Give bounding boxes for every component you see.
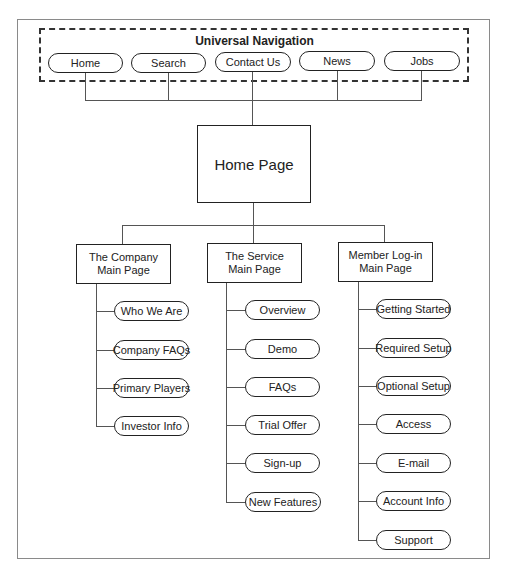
connector [85, 100, 422, 101]
connector [337, 71, 338, 100]
service-trial-offer[interactable]: Trial Offer [245, 415, 320, 435]
universal-nav-title: Universal Navigation [0, 34, 509, 48]
connector [253, 225, 254, 244]
company-who-we-are[interactable]: Who We Are [114, 301, 189, 321]
nav-home[interactable]: Home [48, 53, 123, 73]
connector [358, 282, 359, 541]
member-login-main-page-node[interactable]: Member Log-in Main Page [338, 242, 433, 282]
service-sign-up[interactable]: Sign-up [245, 453, 320, 473]
member-support[interactable]: Support [376, 530, 451, 550]
member-access[interactable]: Access [376, 414, 451, 434]
nav-jobs[interactable]: Jobs [384, 51, 460, 71]
connector [96, 311, 114, 312]
company-primary-players[interactable]: Primary Players [114, 378, 189, 398]
nav-contact-us[interactable]: Contact Us [215, 52, 291, 72]
connector [226, 502, 245, 503]
service-overview[interactable]: Overview [245, 300, 320, 320]
connector [226, 463, 245, 464]
connector [384, 225, 385, 243]
connector [358, 463, 376, 464]
connector [226, 349, 245, 350]
connector [96, 388, 114, 389]
member-getting-started[interactable]: Getting Started [376, 299, 451, 319]
connector [96, 350, 114, 351]
company-faqs[interactable]: Company FAQs [114, 340, 189, 360]
connector [226, 310, 245, 311]
company-main-page-node[interactable]: The Company Main Page [76, 244, 171, 284]
company-investor-info[interactable]: Investor Info [114, 416, 189, 436]
connector [358, 540, 376, 541]
member-required-setup[interactable]: Required Setup [376, 338, 451, 358]
member-email[interactable]: E-mail [376, 453, 451, 473]
service-faqs[interactable]: FAQs [245, 377, 320, 397]
connector [85, 73, 86, 100]
member-optional-setup[interactable]: Optional Setup [376, 376, 451, 396]
nav-news[interactable]: News [299, 51, 375, 71]
connector [96, 426, 114, 427]
service-new-features[interactable]: New Features [245, 492, 321, 512]
member-account-info[interactable]: Account Info [376, 491, 451, 511]
connector [226, 283, 227, 503]
connector [96, 284, 97, 427]
connector [253, 203, 254, 225]
service-main-page-node[interactable]: The Service Main Page [207, 243, 302, 283]
home-page-node[interactable]: Home Page [197, 125, 311, 203]
service-demo[interactable]: Demo [245, 339, 320, 359]
connector [358, 348, 376, 349]
connector [122, 225, 123, 245]
connector [358, 386, 376, 387]
connector [168, 73, 169, 100]
connector [421, 71, 422, 100]
connector [358, 309, 376, 310]
connector [252, 72, 253, 130]
connector [226, 425, 245, 426]
nav-search[interactable]: Search [131, 53, 206, 73]
connector [226, 387, 245, 388]
connector [358, 424, 376, 425]
connector [358, 501, 376, 502]
